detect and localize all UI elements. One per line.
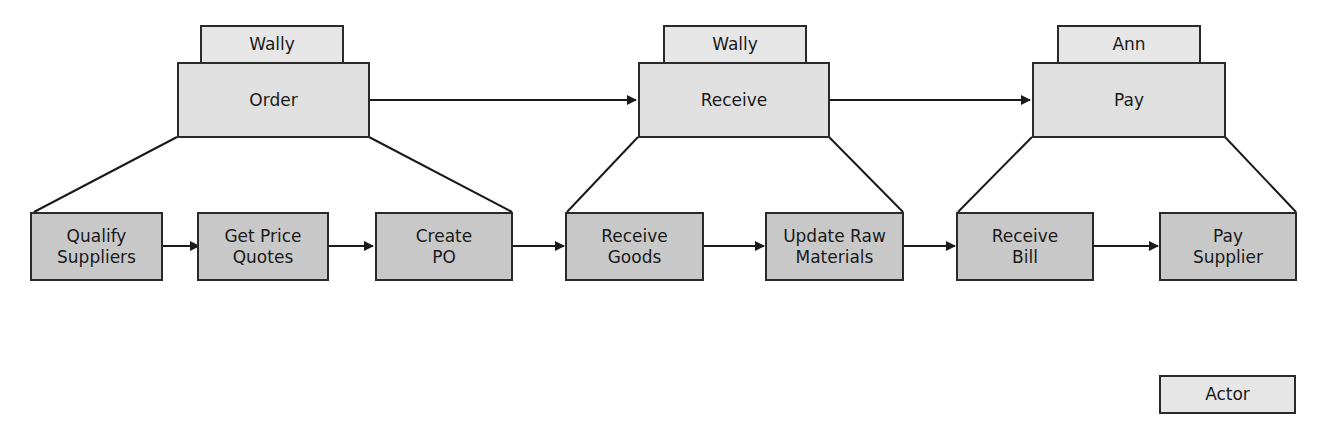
subprocess-box: Update RawMaterials <box>765 212 904 281</box>
actor-box-pay: Ann <box>1057 25 1201 64</box>
subprocess-label-line2: Quotes <box>224 247 301 268</box>
subprocess-label-line1: Receive <box>601 226 668 247</box>
process-box-pay: Pay <box>1032 62 1226 138</box>
subprocess-label-line2: Materials <box>783 247 886 268</box>
subprocess-label-line1: Receive <box>992 226 1059 247</box>
subprocess-label-line2: Supplier <box>1193 247 1263 268</box>
process-label: Receive <box>701 90 768 111</box>
subprocess-label-line2: Bill <box>992 247 1059 268</box>
subprocess-box: ReceiveBill <box>956 212 1094 281</box>
process-box-order: Order <box>177 62 370 138</box>
process-label: Order <box>249 90 297 111</box>
subprocess-label-line2: Suppliers <box>57 247 136 268</box>
subprocess-box: CreatePO <box>375 212 513 281</box>
process-label: Pay <box>1114 90 1144 111</box>
process-box-receive: Receive <box>638 62 830 138</box>
subprocess-box: PaySupplier <box>1159 212 1297 281</box>
subprocess-label-line2: PO <box>416 247 473 268</box>
actor-label: Wally <box>249 34 295 55</box>
subprocess-label-line2: Goods <box>601 247 668 268</box>
actor-box-receive: Wally <box>663 25 807 64</box>
subprocess-label-line1: Create <box>416 226 473 247</box>
actor-label: Ann <box>1112 34 1145 55</box>
subprocess-label-line1: Qualify <box>57 226 136 247</box>
subprocess-label-line1: Pay <box>1193 226 1263 247</box>
subprocess-box: ReceiveGoods <box>565 212 704 281</box>
actor-box-order: Wally <box>200 25 344 64</box>
legend-label: Actor <box>1205 384 1250 405</box>
actor-label: Wally <box>712 34 758 55</box>
subprocess-label-line1: Update Raw <box>783 226 886 247</box>
subprocess-box: QualifySuppliers <box>30 212 163 281</box>
subprocess-label-line1: Get Price <box>224 226 301 247</box>
legend-actor-box: Actor <box>1159 375 1296 414</box>
subprocess-box: Get PriceQuotes <box>197 212 329 281</box>
